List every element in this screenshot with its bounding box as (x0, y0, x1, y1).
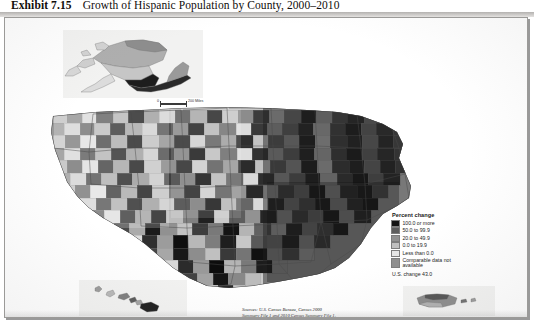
legend-item: 20.0 to 49.9 (391, 235, 475, 242)
legend-swatch (391, 258, 400, 268)
legend-swatch (391, 235, 400, 242)
figure-frame: 0 200 Miles (4, 17, 528, 318)
legend-title: Percent change (392, 212, 475, 218)
choropleth-map: 0 200 Miles (5, 18, 527, 317)
legend-item: Comparable data not available (391, 258, 475, 269)
legend-item: 50.0 to 99.9 (391, 227, 475, 234)
scan-bottom-shade (5, 310, 527, 317)
map-legend: Percent change 100.0 or more 50.0 to 99.… (391, 212, 475, 277)
legend-label: 100.0 or more (402, 220, 434, 226)
legend-swatch (391, 220, 400, 227)
legend-swatch (391, 227, 400, 234)
legend-label: 0.0 to 19.9 (402, 242, 427, 248)
legend-label: 50.0 to 99.9 (402, 227, 429, 233)
exhibit-number: Exhibit 7.15 (11, 0, 72, 11)
legend-swatch (391, 242, 400, 249)
legend-item: Less than 0.0 (391, 250, 475, 257)
alaska-inset-shape (63, 30, 203, 98)
legend-national-note: U.S. change 43.0 (392, 271, 475, 277)
legend-swatch (391, 250, 400, 257)
legend-item: 100.0 or more (391, 220, 475, 227)
exhibit-title: Growth of Hispanic Population by County,… (83, 0, 340, 11)
legend-label: Comparable data not available (402, 258, 460, 269)
legend-label: 20.0 to 49.9 (402, 235, 429, 241)
alaska-inset: 0 200 Miles (63, 30, 203, 98)
figure-inner: 0 200 Miles (5, 18, 527, 317)
legend-item: 0.0 to 19.9 (391, 242, 475, 249)
exhibit-caption: Exhibit 7.15Growth of Hispanic Populatio… (11, 0, 340, 11)
legend-label: Less than 0.0 (402, 250, 433, 256)
